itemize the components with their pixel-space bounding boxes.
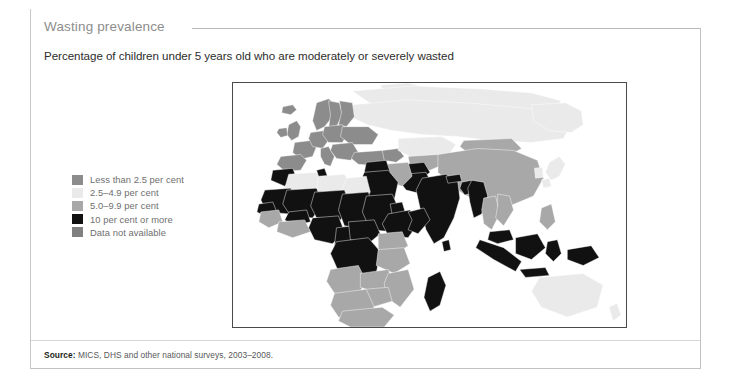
legend-item: Data not available <box>72 226 184 239</box>
region-japan <box>545 156 565 180</box>
map-legend: Less than 2.5 per cent 2.5–4.9 per cent … <box>72 173 184 239</box>
legend-swatch-icon <box>72 227 83 237</box>
legend-swatch-icon <box>72 214 83 224</box>
region-korea <box>534 167 543 178</box>
region-malaysia <box>488 230 514 244</box>
region-java <box>520 267 550 277</box>
source-divider <box>31 340 700 341</box>
region-philippines <box>539 204 555 230</box>
figure-panel: Wasting prevalence Percentage of childre… <box>0 0 735 379</box>
legend-swatch-icon <box>72 201 83 211</box>
region-australia <box>531 273 603 317</box>
region-sumatra <box>476 240 522 272</box>
legend-item: 5.0–9.9 per cent <box>72 199 184 212</box>
legend-swatch-icon <box>72 175 83 185</box>
region-ghana-coast <box>277 220 311 238</box>
frame-bottom-rule <box>30 368 701 369</box>
frame-right-rule <box>700 28 701 368</box>
page-title: Wasting prevalence <box>44 19 165 34</box>
region-iceland <box>282 105 297 115</box>
legend-item-label: Data not available <box>90 227 166 238</box>
frame-left-rule <box>30 9 31 368</box>
region-sulawesi <box>545 240 561 262</box>
legend-item-label: Less than 2.5 per cent <box>90 174 184 185</box>
source-label: Source: <box>44 350 76 360</box>
region-united-kingdom <box>287 121 301 141</box>
legend-item-label: 2.5–4.9 per cent <box>90 187 159 198</box>
region-madagascar <box>424 271 446 311</box>
region-papua-new-guinea <box>567 246 599 266</box>
region-tanzania <box>376 248 410 274</box>
region-ireland <box>277 128 288 138</box>
world-map-svg <box>233 83 626 327</box>
region-sri-lanka <box>442 240 451 252</box>
page-subtitle: Percentage of children under 5 years old… <box>44 49 454 62</box>
region-japan-south <box>541 178 551 188</box>
legend-item: 10 per cent or more <box>72 213 184 226</box>
legend-swatch-icon <box>72 188 83 198</box>
legend-item: 2.5–4.9 per cent <box>72 186 184 199</box>
legend-item: Less than 2.5 per cent <box>72 173 184 186</box>
region-new-zealand <box>609 303 621 321</box>
legend-item-label: 10 per cent or more <box>90 214 173 225</box>
frame-top-rule <box>192 28 700 29</box>
source-text: MICS, DHS and other national surveys, 20… <box>76 350 274 360</box>
world-map <box>232 82 627 328</box>
region-borneo <box>516 234 546 260</box>
legend-item-label: 5.0–9.9 per cent <box>90 200 159 211</box>
region-ukraine-belarus <box>340 127 378 145</box>
source-note: Source: MICS, DHS and other national sur… <box>44 350 273 360</box>
